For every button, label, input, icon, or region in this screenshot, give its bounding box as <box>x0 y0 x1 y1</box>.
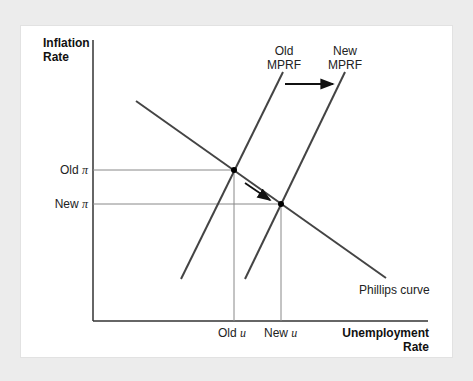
movement-arrow-icon <box>245 183 270 200</box>
new-mprf-label: New MPRF <box>323 44 367 72</box>
new-equilibrium-point <box>278 201 284 207</box>
y-tick-old-pi: Old π <box>40 163 88 177</box>
old-mprf-line <box>181 72 283 279</box>
phillips-curve-label: Phillips curve <box>359 283 430 297</box>
x-axis-label: Unemployment Rate <box>330 326 429 354</box>
x-tick-old-u: Old u <box>218 326 246 340</box>
old-mprf-label: Old MPRF <box>262 44 306 72</box>
new-mprf-line <box>245 72 345 279</box>
y-axis-label: Inflation Rate <box>43 36 90 64</box>
phillips-curve <box>136 101 386 278</box>
old-equilibrium-point <box>231 167 237 173</box>
y-tick-new-pi: New π <box>40 197 88 211</box>
x-tick-new-u: New u <box>264 326 297 340</box>
